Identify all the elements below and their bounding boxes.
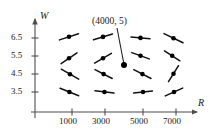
y-tick-label-6-5: 6.5 [11,33,22,42]
slope-field-figure: 6.5 5.5 4.5 3.5 1000 3000 5000 7000 W R … [0,0,216,135]
x-tick-label-3000: 3000 [92,117,110,126]
y-tick-label-4-5: 4.5 [11,69,22,78]
x-tick-label-5000: 5000 [130,117,148,126]
annotation-point-marker [121,62,127,68]
x-tick-label-7000: 7000 [163,117,181,126]
x-axis-label: R [198,98,204,108]
annotation-leader-line [117,28,124,65]
y-tick-label-3-5: 3.5 [11,87,22,96]
y-tick-label-5-5: 5.5 [11,51,22,60]
x-tick-label-1000: 1000 [59,117,77,126]
y-axis [32,19,39,118]
y-axis-label: W [40,11,48,21]
annotation-point-label: (4000, 5) [92,17,127,27]
x-axis [31,109,197,116]
